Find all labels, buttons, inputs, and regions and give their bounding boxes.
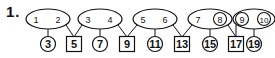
oval-number: 8 xyxy=(217,15,222,25)
oval-number: 3 xyxy=(85,15,90,25)
sum-number: 11 xyxy=(149,38,161,50)
connector-line xyxy=(228,25,236,37)
sum-number: 19 xyxy=(248,38,260,50)
oval-number: 2 xyxy=(55,15,60,25)
sum-number: 15 xyxy=(204,38,216,50)
sum-number: 7 xyxy=(97,38,103,50)
sum-number: 9 xyxy=(124,38,130,50)
oval-number: 10 xyxy=(260,16,269,25)
connector-line xyxy=(118,25,127,37)
connector-line xyxy=(182,25,192,37)
sum-number: 13 xyxy=(176,38,188,50)
connector-line xyxy=(66,25,74,37)
connector-line xyxy=(74,25,82,37)
oval-number: 4 xyxy=(107,15,112,25)
connector-line xyxy=(173,25,182,37)
oval-number: 9 xyxy=(239,15,244,25)
sum-number: 3 xyxy=(45,38,51,50)
sum-number: 5 xyxy=(71,38,77,50)
oval-number: 6 xyxy=(162,15,167,25)
number-pair-diagram: 1234567891035791113151719 xyxy=(0,0,275,58)
oval-number: 1 xyxy=(33,15,38,25)
oval-number: 5 xyxy=(140,15,145,25)
connector-line xyxy=(127,25,137,37)
sum-number: 17 xyxy=(230,38,242,50)
oval-number: 7 xyxy=(195,15,200,25)
